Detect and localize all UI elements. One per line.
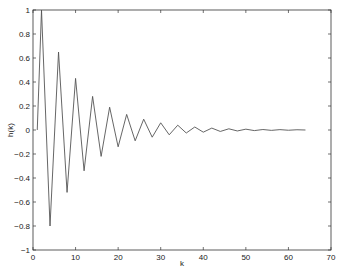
x-tick-label: 60 bbox=[284, 253, 293, 262]
x-tick-label: 10 bbox=[71, 253, 80, 262]
x-tick-label: 50 bbox=[241, 253, 250, 262]
y-tick-label: 1 bbox=[26, 6, 31, 15]
x-tick-label: 30 bbox=[156, 253, 165, 262]
data-line bbox=[37, 10, 305, 226]
y-tick-label: −0.8 bbox=[14, 222, 30, 231]
y-tick-label: 0.2 bbox=[19, 102, 31, 111]
x-tick-label: 70 bbox=[327, 253, 336, 262]
x-tick-label: 20 bbox=[114, 253, 123, 262]
y-tick-labels: −1−0.8−0.6−0.4−0.200.20.40.60.81 bbox=[14, 6, 30, 255]
y-tick-label: 0.6 bbox=[19, 54, 31, 63]
y-tick-label: −1 bbox=[21, 246, 31, 255]
y-tick-label: −0.6 bbox=[14, 198, 30, 207]
x-axis-label: k bbox=[180, 259, 185, 268]
y-tick-label: −0.4 bbox=[14, 174, 30, 183]
y-tick-label: 0.4 bbox=[19, 78, 31, 87]
y-tick-label: −0.2 bbox=[14, 150, 30, 159]
y-tick-label: 0.8 bbox=[19, 30, 31, 39]
x-tick-label: 40 bbox=[199, 253, 208, 262]
chart: 010203040506070 −1−0.8−0.6−0.4−0.200.20.… bbox=[0, 0, 340, 269]
x-tick-label: 0 bbox=[31, 253, 36, 262]
y-axis-label: h(k) bbox=[6, 123, 15, 137]
y-tick-label: 0 bbox=[26, 126, 31, 135]
